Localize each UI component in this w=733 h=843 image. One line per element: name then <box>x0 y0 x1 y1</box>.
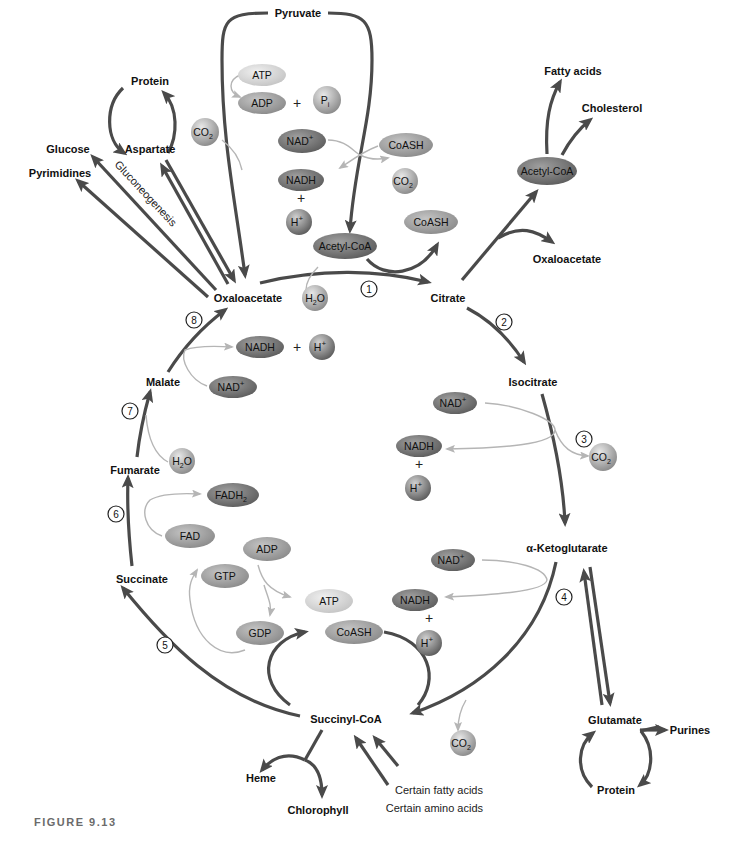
fad-label: FAD <box>180 530 201 542</box>
oxaloacetate-label: Oxaloacetate <box>214 292 282 304</box>
step-4-label: 4 <box>561 592 567 603</box>
step1-arrow <box>260 272 428 283</box>
glutamate-to-protein-arrow <box>640 731 651 785</box>
isocitrate-label: Isocitrate <box>509 376 558 388</box>
step6-arrow <box>128 478 132 566</box>
chlorophyll-label: Chlorophyll <box>287 804 348 816</box>
coash-released-arrow <box>269 632 305 705</box>
pyruvate-to-acetylcoa-arrow <box>328 13 372 230</box>
succinyl-coa-label: Succinyl-CoA <box>310 713 382 725</box>
step-7-label: 7 <box>127 406 133 417</box>
plus-sign: + <box>293 339 301 355</box>
gtp-label: GTP <box>214 570 236 582</box>
succinylcoa-heme-stem <box>305 730 322 760</box>
aspartate-label: Aspartate <box>125 143 176 155</box>
plus-sign: + <box>297 190 305 206</box>
step-1-label: 1 <box>366 284 372 295</box>
plus-sign: + <box>293 95 301 111</box>
acetylcoa-to-coash-arrow <box>367 245 437 272</box>
h2o-step7-arrow <box>146 415 168 462</box>
purines-label: Purines <box>670 724 710 736</box>
gtp-to-gdp-arrow <box>264 585 271 615</box>
adp-label: ADP <box>256 543 278 555</box>
nadh-label: NADH <box>404 440 434 452</box>
coash-label: CoASH <box>413 216 448 228</box>
fattyacids-to-succinylcoa-arrow <box>356 738 388 785</box>
co2-released-arrow <box>222 140 242 170</box>
plus-sign: + <box>415 456 423 472</box>
step-2-label: 2 <box>501 317 507 328</box>
aminoacids-to-succinylcoa-arrow <box>375 738 398 766</box>
plus-sign: + <box>425 610 433 626</box>
acetyl-coa-label: Acetyl-CoA <box>521 165 574 177</box>
ketoglutarate-label: α-Ketoglutarate <box>526 542 607 554</box>
acetylcoa-to-fattyacids-arrow <box>547 82 560 154</box>
nadh-label: NADH <box>245 341 275 353</box>
protein-to-aspartate-arrow <box>110 88 124 153</box>
atp-label: ATP <box>319 595 339 607</box>
step-6-label: 6 <box>113 509 119 520</box>
protein-label-right: Protein <box>597 784 635 796</box>
glucose-label: Glucose <box>46 143 89 155</box>
citrate-label: Citrate <box>431 292 466 304</box>
nadh-label: NADH <box>286 174 316 186</box>
acetylcoa-to-cholesterol-arrow <box>562 120 590 155</box>
atp-to-adp-arrow <box>231 75 240 97</box>
oxaloacetate-label-right: Oxaloacetate <box>533 253 601 265</box>
gdp-label: GDP <box>249 627 272 639</box>
atp-label: ATP <box>252 69 272 81</box>
nadh-label: NADH <box>400 594 430 606</box>
fumarate-label: Fumarate <box>110 464 160 476</box>
step-3-label: 3 <box>581 434 587 445</box>
to-chlorophyll-arrow <box>305 760 322 795</box>
acetyl-coa-label: Acetyl-CoA <box>319 240 372 252</box>
fadh2-label: FADH2 <box>215 489 247 503</box>
cholesterol-label: Cholesterol <box>582 102 643 114</box>
bottom-branch-arrows <box>262 730 398 795</box>
step3-arrow <box>542 394 565 523</box>
coash-label: CoASH <box>336 626 371 638</box>
main-cycle-arrows <box>123 13 565 716</box>
citrate-to-oxaloacetate-arrow <box>498 230 552 242</box>
glutamate-label: Glutamate <box>588 714 642 726</box>
protein-to-glutamate-arrow <box>580 733 593 787</box>
malate-label: Malate <box>146 376 180 388</box>
succinate-label: Succinate <box>116 573 168 585</box>
figure-caption: FIGURE 9.13 <box>34 816 117 828</box>
step4-co2-arrow <box>458 700 466 730</box>
adp-label: ADP <box>251 97 273 109</box>
protein-label-left: Protein <box>131 75 169 87</box>
fatty-acids-label: Fatty acids <box>544 65 601 77</box>
certain-fatty-acids-label: Certain fatty acids <box>395 784 484 796</box>
step-5-label: 5 <box>162 640 168 651</box>
certain-amino-acids-label: Certain amino acids <box>386 802 484 814</box>
citric-acid-cycle-diagram: ATP ADP + Pi CO2 NAD+ CoASH NADH + H+ CO… <box>0 0 733 843</box>
oxaloacetate-to-glucose-arrow <box>93 157 216 290</box>
pyruvate-label: Pyruvate <box>275 7 321 19</box>
pyrimidines-label: Pyrimidines <box>29 167 91 179</box>
pyruvate-to-oxaloacetate-arrow <box>222 13 268 275</box>
right-branch-arrows <box>462 82 665 787</box>
step-8-label: 8 <box>191 315 197 326</box>
step2-arrow <box>467 308 524 362</box>
coash-label: CoASH <box>388 139 423 151</box>
heme-label: Heme <box>246 772 276 784</box>
to-heme-arrow <box>262 756 305 770</box>
adp-to-atp-arrow <box>258 565 290 597</box>
step7-arrow <box>137 392 150 457</box>
